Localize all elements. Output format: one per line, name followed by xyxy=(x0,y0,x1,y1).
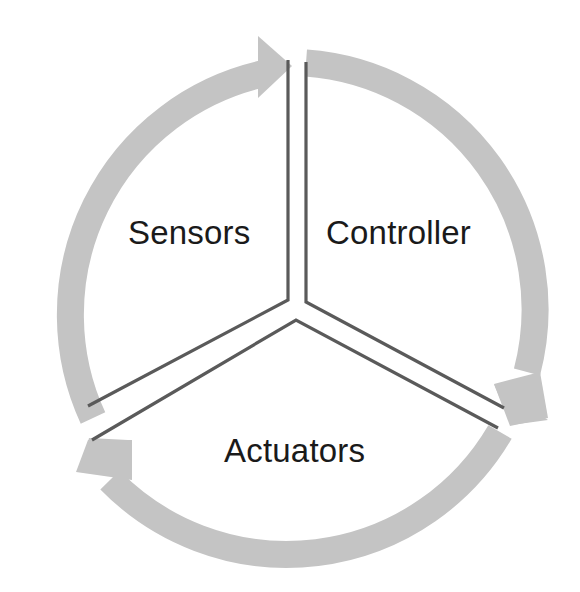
cycle-diagram xyxy=(0,0,580,592)
segment-label-sensors: Sensors xyxy=(128,214,250,252)
segment-label-controller: Controller xyxy=(326,214,471,252)
segment-label-actuators: Actuators xyxy=(224,432,365,470)
